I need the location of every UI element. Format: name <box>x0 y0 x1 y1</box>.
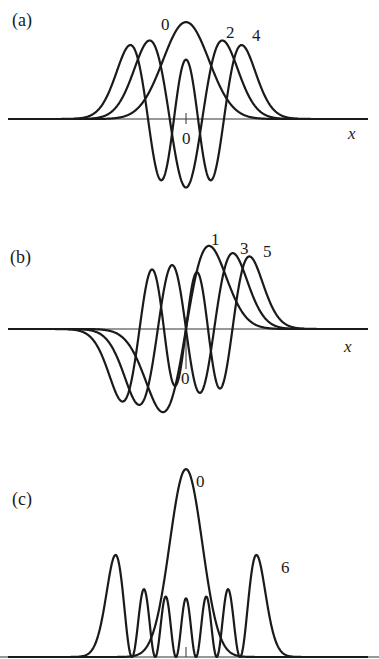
curve-label-b-5: 5 <box>263 243 272 260</box>
curve-label-a-0: 0 <box>161 16 170 33</box>
panel-a-plot <box>8 22 368 187</box>
curve-density-6 <box>8 555 368 657</box>
curve-label-b-3: 3 <box>240 240 249 257</box>
curve-psi-4 <box>8 45 368 180</box>
curve-label-b-1: 1 <box>211 231 220 248</box>
panel-a-label: (a) <box>12 11 32 29</box>
curve-label-a-2: 2 <box>226 24 235 41</box>
curve-psi-0 <box>8 22 368 119</box>
hermite-function-figure: (a) 0 2 4 0 x (b) 1 3 5 0 x (c) 0 6 <box>0 0 379 659</box>
curve-density-0 <box>8 469 368 657</box>
panel-c-label: (c) <box>12 490 32 508</box>
panel-b-label: (b) <box>10 248 31 266</box>
origin-label-a: 0 <box>182 130 191 147</box>
plot-canvas <box>0 0 379 659</box>
curve-label-a-4: 4 <box>252 27 261 44</box>
x-axis-label-b: x <box>344 338 352 355</box>
curve-label-c-6: 6 <box>281 559 290 576</box>
origin-label-b: 0 <box>181 370 190 387</box>
panel-c-plot <box>0 469 379 657</box>
x-axis-label-a: x <box>348 125 356 142</box>
curve-label-c-0: 0 <box>196 473 205 490</box>
